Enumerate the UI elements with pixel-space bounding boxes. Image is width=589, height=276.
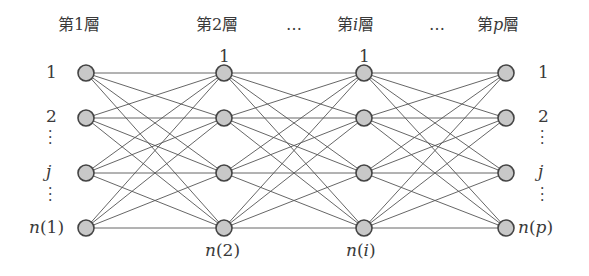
neural-network-diagram xyxy=(0,0,589,276)
right-label-j: j xyxy=(538,163,543,180)
left-vdots-1: ··· xyxy=(48,128,52,146)
left-label-1: 1 xyxy=(46,64,57,81)
layer-1-node-4 xyxy=(78,220,94,236)
top-label-layer-i: 1 xyxy=(359,48,370,65)
layer-1-node-3 xyxy=(78,165,94,181)
left-vdots-2: ··· xyxy=(48,185,52,203)
header-ellipsis-1: … xyxy=(286,17,302,33)
header-layer-2: 第2層 xyxy=(196,17,238,33)
layer-2-node-1 xyxy=(216,65,232,81)
bottom-label-ni: n(i) xyxy=(346,242,376,259)
header-layer-1: 第1層 xyxy=(58,17,100,33)
layer-i-node-3 xyxy=(356,165,372,181)
layer-p-node-1 xyxy=(498,65,514,81)
left-label-j: j xyxy=(46,163,51,180)
header-ellipsis-2: … xyxy=(429,17,445,33)
top-label-layer-2: 1 xyxy=(219,48,230,65)
layer-p-node-3 xyxy=(498,165,514,181)
layer-p-node-4 xyxy=(498,220,514,236)
layer-1-node-1 xyxy=(78,65,94,81)
layer-2-node-3 xyxy=(216,165,232,181)
layer-2-node-4 xyxy=(216,220,232,236)
layer-i-node-4 xyxy=(356,220,372,236)
header-layer-p: 第p層 xyxy=(477,17,519,33)
left-label-n1: n(1) xyxy=(29,219,64,236)
layer-p-node-2 xyxy=(498,110,514,126)
layer-2-node-2 xyxy=(216,110,232,126)
layer-i-node-2 xyxy=(356,110,372,126)
right-vdots-2: ··· xyxy=(540,185,544,203)
right-label-1: 1 xyxy=(538,64,549,81)
layer-1-node-2 xyxy=(78,110,94,126)
right-vdots-1: ··· xyxy=(540,128,544,146)
bottom-label-n2: n(2) xyxy=(205,242,240,259)
layer-i-node-1 xyxy=(356,65,372,81)
header-layer-i: 第i層 xyxy=(337,17,374,33)
right-label-np: n(p) xyxy=(518,219,553,236)
